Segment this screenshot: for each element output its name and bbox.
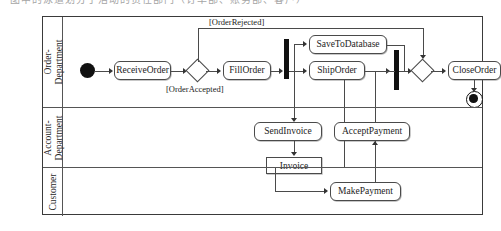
swimlane-account-department: Account- Department SendInvoice Invoice — [43, 107, 482, 167]
action-label: CloseOrder — [453, 66, 497, 76]
page-caption: 图中的泳道划分了活动的责任部门（订单部、账务部、客户） — [10, 0, 340, 6]
swimlane-label-column-order-department: Order- Department — [43, 17, 63, 107]
edge-rejected-v-left — [198, 28, 199, 62]
swimlane-label-account-department: Account- Department — [42, 115, 63, 160]
action-save-to-database[interactable]: SaveToDatabase — [309, 35, 387, 54]
initial-node — [80, 63, 95, 78]
action-close-order[interactable]: CloseOrder — [448, 61, 501, 80]
activity-diagram-frame: Order- Department ReceiveOrder [OrderAcc… — [42, 16, 483, 215]
action-receive-order[interactable]: ReceiveOrder — [114, 61, 171, 80]
arrowhead — [291, 152, 297, 156]
arrowhead — [442, 68, 446, 74]
edge-savetodatabase-to-join-h — [387, 45, 404, 46]
action-label: ReceiveOrder — [116, 66, 169, 76]
edge-rejected-v-right — [423, 28, 424, 57]
swimlane-label-order-department: Order- Department — [42, 40, 63, 85]
swimlane-order-department: Order- Department ReceiveOrder [OrderAcc… — [43, 17, 482, 107]
arrowhead — [372, 141, 378, 145]
swimlane-body-customer: MakePayment — [63, 168, 482, 216]
edge-makepayment-up-passthrough — [375, 168, 376, 182]
edge-rejected-h — [198, 28, 423, 29]
edge-makepayment-to-acceptpayment — [375, 141, 376, 168]
edge-acceptpayment-up — [375, 71, 376, 107]
action-fill-order[interactable]: FillOrder — [223, 61, 271, 80]
action-make-payment[interactable]: MakePayment — [330, 182, 401, 201]
swimlane-label-customer: Customer — [47, 174, 58, 211]
edge-savetodatabase-to-join-v — [404, 45, 405, 71]
swimlane-body-order-department: ReceiveOrder [OrderAccepted] FillOrder — [63, 17, 482, 107]
action-send-invoice[interactable]: SendInvoice — [254, 122, 322, 141]
swimlane-body-account-department: SendInvoice Invoice AcceptPayment — [63, 108, 482, 167]
arrowhead — [324, 188, 328, 194]
swimlane-label-line-2: Department — [53, 115, 64, 160]
action-label: SaveToDatabase — [316, 40, 379, 50]
edge-shiporder-down — [344, 80, 345, 107]
swimlane-label-line-1: Order- — [42, 40, 53, 85]
swimlane-customer: Customer MakePayment — [43, 167, 482, 216]
edge-acceptpayment-into-join — [375, 71, 395, 72]
edge-acceptpayment-to-join — [375, 108, 376, 122]
action-accept-payment[interactable]: AcceptPayment — [334, 122, 410, 141]
guard-order-rejected: [OrderRejected] — [209, 17, 264, 27]
action-label: ShipOrder — [317, 66, 357, 76]
swimlane-label-line-1: Customer — [47, 174, 58, 211]
edge-invoice-to-makepayment — [275, 191, 325, 192]
action-label: FillOrder — [229, 66, 264, 76]
swimlane-label-column-account-department: Account- Department — [43, 108, 63, 167]
arrowhead — [303, 41, 307, 47]
arrowhead — [420, 55, 426, 59]
fork-node — [284, 39, 289, 79]
action-label: SendInvoice — [264, 127, 312, 137]
swimlane-label-column-customer: Customer — [43, 168, 63, 216]
edge-initial-to-receiveorder — [95, 71, 110, 72]
swimlane-label-line-1: Account- — [42, 115, 53, 160]
action-label: AcceptPayment — [342, 127, 402, 137]
guard-order-accepted: [OrderAccepted] — [166, 84, 224, 94]
edge-fork-to-sendinvoice — [294, 71, 295, 107]
arrowhead — [279, 68, 283, 74]
swimlane-label-line-2: Department — [53, 40, 64, 85]
edge-invoice-down — [275, 168, 276, 191]
edge-fork-to-shiporder — [289, 71, 304, 72]
arrowhead — [303, 68, 307, 74]
arrowhead — [217, 68, 221, 74]
arrowhead — [109, 68, 113, 74]
final-node — [466, 91, 483, 108]
action-label: MakePayment — [338, 187, 393, 197]
edge-fork-to-savetodatabase — [294, 44, 295, 71]
action-ship-order[interactable]: ShipOrder — [309, 61, 365, 80]
